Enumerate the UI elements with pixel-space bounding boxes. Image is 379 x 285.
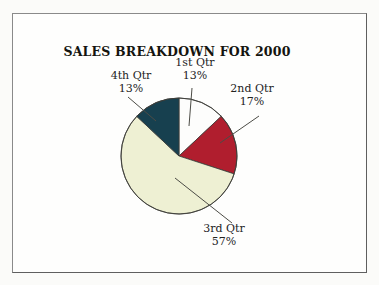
slice-label-1st-qtr: 1st Qtr 13% bbox=[175, 57, 214, 83]
slice-label-pct: 13% bbox=[175, 70, 214, 83]
slice-label-name: 4th Qtr bbox=[111, 70, 152, 83]
pie-chart bbox=[0, 0, 379, 285]
slice-label-name: 1st Qtr bbox=[175, 57, 214, 70]
slice-label-pct: 57% bbox=[203, 236, 245, 249]
slice-label-4th-qtr: 4th Qtr 13% bbox=[111, 70, 152, 96]
slice-label-name: 3rd Qtr bbox=[203, 223, 245, 236]
slice-label-3rd-qtr: 3rd Qtr 57% bbox=[203, 223, 245, 249]
slice-label-pct: 17% bbox=[230, 96, 273, 109]
slice-label-name: 2nd Qtr bbox=[230, 83, 273, 96]
chart-canvas: SALES BREAKDOWN FOR 2000 1st Qtr 13% 2nd… bbox=[0, 0, 379, 285]
slice-label-2nd-qtr: 2nd Qtr 17% bbox=[230, 83, 273, 109]
slice-label-pct: 13% bbox=[111, 83, 152, 96]
